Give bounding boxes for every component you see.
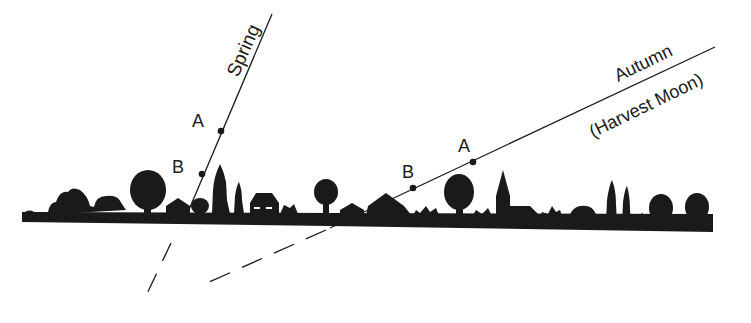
- spring-point-a-label: A: [192, 111, 204, 131]
- poplar-tree-3: [606, 180, 617, 224]
- bushes-autumn-mid: [470, 208, 494, 220]
- tree-trunk-autumn: [456, 204, 463, 218]
- autumn-path-below-horizon: [207, 230, 326, 283]
- tree-trunk-mid: [323, 200, 329, 214]
- bushes-right-1: [538, 206, 564, 222]
- autumn-point-b-label: B: [402, 162, 414, 182]
- autumn-label: Autumn: [611, 40, 676, 85]
- spring-label: Spring: [222, 21, 264, 80]
- house-peaked: [366, 193, 412, 216]
- tree-trunk: [144, 200, 151, 214]
- horizon-silhouette: [22, 164, 713, 232]
- house-with-windows: [250, 193, 279, 214]
- spring-path: Spring A B: [145, 14, 272, 298]
- autumn-point-a: [470, 159, 477, 166]
- tree-round-right-1: [649, 194, 673, 222]
- house-small-2: [340, 203, 364, 215]
- spring-point-a: [218, 128, 225, 135]
- church-steeple: [496, 170, 538, 222]
- tree-round-right-2: [685, 193, 709, 221]
- bushes-left: [22, 188, 126, 216]
- autumn-point-b: [410, 185, 417, 192]
- spring-point-b-label: B: [172, 157, 184, 177]
- bush-round-1: [191, 198, 209, 214]
- poplar-tree-1: [212, 164, 230, 214]
- autumn-path: Autumn (Harvest Moon) A B: [207, 40, 715, 283]
- poplar-tree-4: [622, 186, 631, 224]
- house-window-1: [254, 207, 260, 209]
- spring-path-below-horizon: [145, 243, 171, 298]
- autumn-point-a-label: A: [458, 136, 470, 156]
- spring-point-b: [199, 171, 206, 178]
- house-small-1: [166, 198, 190, 213]
- bushes-autumn-left: [412, 206, 440, 218]
- house-window-2: [266, 207, 272, 209]
- bushes-middle: [280, 204, 298, 214]
- moonrise-diagram: Spring A B Autumn (Harvest Moon) A B: [0, 0, 751, 323]
- bushes-right-2: [568, 206, 600, 222]
- poplar-tree-2: [234, 182, 244, 214]
